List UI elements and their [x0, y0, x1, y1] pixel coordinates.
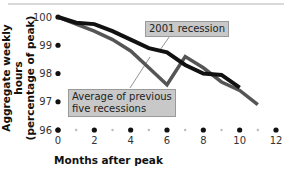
x-tick-dot	[257, 129, 259, 131]
y-tick-dot	[55, 43, 60, 48]
x-tick-dot	[237, 127, 242, 132]
x-tick-label: 6	[164, 135, 170, 146]
y-tick-dot	[55, 99, 60, 104]
x-tick-dot	[148, 129, 150, 131]
x-tick-dot	[111, 129, 113, 131]
x-tick-dot	[164, 127, 169, 132]
y-tick-label: 100	[33, 12, 52, 23]
callout-avg-line-2: five recessions	[72, 103, 172, 115]
x-tick-label: 8	[200, 135, 206, 146]
x-tick-dot	[55, 127, 60, 132]
x-tick-label: 2	[91, 135, 97, 146]
callout-average-previous: Average of previous five recessions	[68, 89, 176, 117]
y-tick-label: 99	[39, 40, 52, 51]
callout-2001-text: 2001 recession	[149, 23, 225, 34]
y-tick-label: 97	[39, 96, 52, 107]
x-tick-dot	[92, 127, 97, 132]
y-tick-dot	[55, 71, 60, 76]
x-tick-dot	[201, 127, 206, 132]
callout-avg-line-1: Average of previous	[72, 91, 172, 103]
x-tick-label: 10	[233, 135, 246, 146]
y-tick-label: 96	[39, 125, 52, 136]
x-tick-dot	[273, 127, 278, 132]
y-tick-label: 98	[39, 68, 52, 79]
callout-2001-recession: 2001 recession	[145, 21, 229, 37]
x-tick-label: 4	[127, 135, 133, 146]
x-tick-label: 0	[55, 135, 61, 146]
x-tick-label: 12	[270, 135, 283, 146]
line-chart: 96979899100024681012	[0, 0, 288, 170]
x-tick-dot	[128, 127, 133, 132]
x-tick-dot	[220, 129, 222, 131]
x-axis-label: Months after peak	[54, 154, 163, 166]
x-tick-dot	[184, 129, 186, 131]
x-tick-dot	[75, 129, 77, 131]
